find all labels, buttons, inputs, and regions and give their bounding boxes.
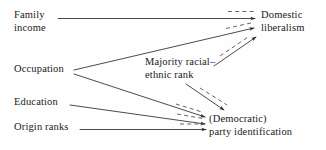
node-origin-ranks-line1: Origin ranks bbox=[14, 121, 69, 134]
node-education-line1: Education bbox=[14, 96, 58, 109]
edge-education-to-party-identification bbox=[70, 105, 205, 124]
node-family-income-line1: Family bbox=[14, 9, 46, 22]
node-majority-racial-ethnic-rank: Majority racial– ethnic rank bbox=[145, 56, 215, 81]
path-diagram-canvas: Family income Occupation Education Origi… bbox=[0, 0, 326, 150]
node-domestic-liberalism-line1: Domestic bbox=[261, 9, 305, 22]
node-occupation-line1: Occupation bbox=[14, 63, 64, 76]
node-majority-rank-line1: Majority racial– bbox=[145, 56, 215, 69]
node-origin-ranks: Origin ranks bbox=[14, 121, 69, 134]
node-party-identification: (Democratic) party identification bbox=[209, 113, 292, 138]
node-party-identification-line1: (Democratic) bbox=[209, 113, 292, 126]
node-family-income: Family income bbox=[14, 9, 46, 34]
node-domestic-liberalism-line2: liberalism bbox=[261, 22, 305, 35]
edge-majority-rank-to-domestic-liberalism bbox=[214, 37, 256, 66]
node-occupation: Occupation bbox=[14, 63, 64, 76]
node-party-identification-line2: party identification bbox=[209, 126, 292, 139]
edge-majority-rank-to-party-identification bbox=[186, 84, 227, 110]
node-education: Education bbox=[14, 96, 58, 109]
node-majority-rank-line2: ethnic rank bbox=[145, 69, 215, 82]
node-domestic-liberalism: Domestic liberalism bbox=[261, 9, 305, 34]
edge-family-income-to-domestic-liberalism bbox=[58, 12, 255, 19]
node-family-income-line2: income bbox=[14, 22, 46, 35]
edge-origin-ranks-to-party-identification bbox=[80, 124, 206, 130]
